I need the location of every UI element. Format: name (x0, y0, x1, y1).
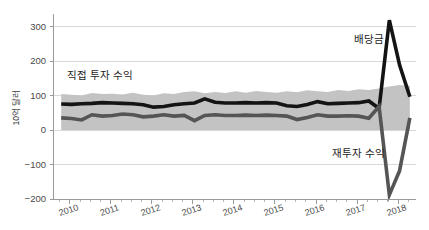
y-tick-label--200: −200 (25, 193, 46, 204)
annotation-0: 직접 투자 수익 (67, 69, 133, 81)
y-tick-label-0: 0 (41, 124, 46, 135)
investment-income-line-chart: 3002001000−100−200 201020112012201320142… (0, 0, 429, 230)
y-tick-label-100: 100 (30, 90, 46, 101)
annotation-2: 재투자 수익 (332, 147, 385, 159)
y-tick-label-200: 200 (30, 55, 46, 66)
y-tick-label--100: −100 (25, 159, 46, 170)
chart-container: 3002001000−100−200 201020112012201320142… (0, 0, 429, 230)
annotation-1: 배당금 (354, 33, 384, 45)
y-axis-title: 10억 달러 (11, 90, 21, 126)
y-tick-label-300: 300 (30, 21, 46, 32)
